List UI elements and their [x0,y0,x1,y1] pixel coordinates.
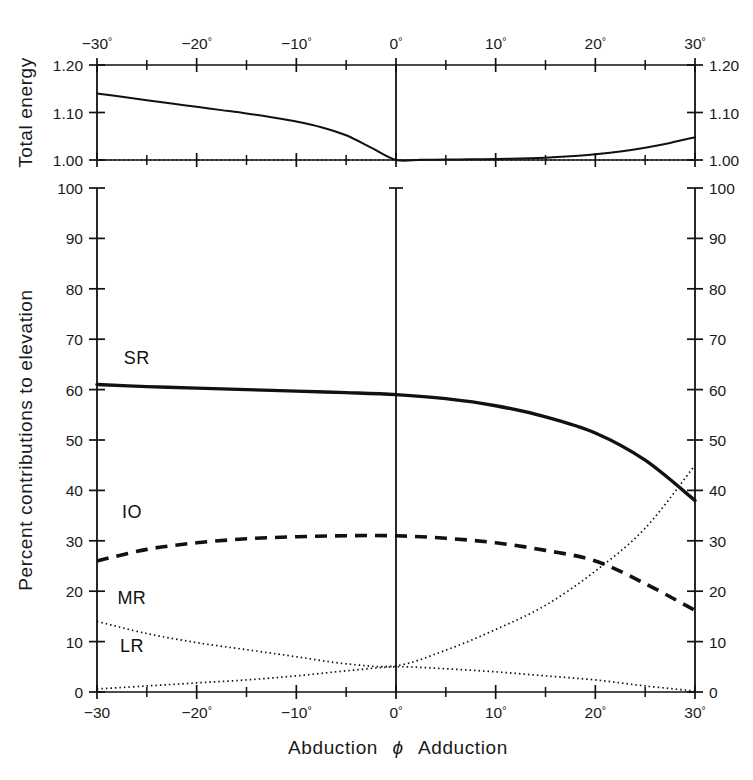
figure-panel: −30°−20°−10°0°10°20°30°1.001.001.101.101… [0,0,753,780]
curve-label-sr: SR [124,348,150,368]
x-tick-label-top-4: 10° [485,35,506,52]
curve-label-io: IO [122,502,142,522]
x-tick-label-bottom-1: −20° [181,704,212,721]
energy-y-label-right-0: 1.00 [709,152,740,169]
energy-y-label-right-2: 1.20 [709,57,740,74]
x-tick-label-top-6: 30° [684,35,705,52]
curve-label-lr: LR [120,636,144,656]
energy-y-label-left-1: 1.10 [53,105,84,122]
percent-y-label-right-0: 0 [709,684,718,701]
percent-y-label-left-10: 100 [57,180,83,197]
percent-y-label-right-1: 10 [709,634,727,651]
percent-y-label-right-6: 60 [709,382,727,399]
x-tick-label-top-2: −10° [281,35,312,52]
percent-y-label-right-10: 100 [709,180,735,197]
energy-axis-title: Total energy [15,57,36,168]
percent-y-label-right-5: 50 [709,432,727,449]
percent-y-label-right-2: 20 [709,583,727,600]
x-tick-label-bottom-4: 10° [485,704,506,721]
x-axis-title-abduction: Abduction [288,737,378,758]
percent-y-label-right-4: 40 [709,482,727,499]
curve-label-mr: MR [117,588,146,608]
percent-y-label-right-3: 30 [709,533,727,550]
percent-y-label-left-9: 90 [66,230,84,247]
percent-y-label-right-8: 80 [709,281,727,298]
percent-y-label-left-0: 0 [74,684,83,701]
x-tick-label-top-1: −20° [181,35,212,52]
percent-y-label-left-8: 80 [66,281,84,298]
x-tick-label-bottom-5: 20° [585,704,606,721]
percent-axis-title: Percent contributions to elevation [15,289,36,590]
percent-y-label-left-1: 10 [66,634,84,651]
x-axis-title-phi: ϕ [392,737,403,758]
percent-y-label-right-7: 70 [709,331,727,348]
x-tick-label-bottom-2: −10° [281,704,312,721]
x-tick-label-bottom-0: −30 [84,704,111,721]
x-axis-title-adduction: Adduction [418,737,508,758]
x-tick-label-bottom-6: 30° [684,704,705,721]
x-tick-label-top-5: 20° [585,35,606,52]
energy-y-label-left-0: 1.00 [53,152,84,169]
percent-y-label-left-6: 60 [66,382,84,399]
percent-y-label-left-5: 50 [66,432,84,449]
percent-y-label-left-3: 30 [66,533,84,550]
percent-y-label-left-2: 20 [66,583,84,600]
chart-svg: −30°−20°−10°0°10°20°30°1.001.001.101.101… [0,0,753,780]
x-tick-label-bottom-3: 0° [390,704,403,721]
percent-y-label-left-4: 40 [66,482,84,499]
x-tick-label-top-0: −30° [82,35,113,52]
percent-y-label-right-9: 90 [709,230,727,247]
energy-y-label-left-2: 1.20 [53,57,84,74]
x-tick-label-top-3: 0° [390,35,403,52]
energy-y-label-right-1: 1.10 [709,105,740,122]
percent-y-label-left-7: 70 [66,331,84,348]
